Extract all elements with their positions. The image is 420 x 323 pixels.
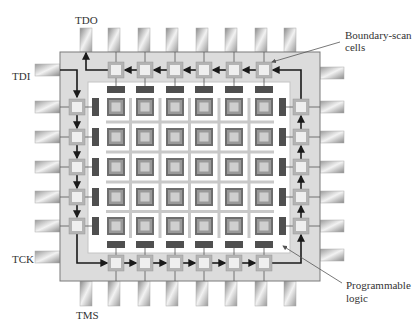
pin bbox=[138, 28, 150, 52]
pin bbox=[35, 131, 60, 143]
pin bbox=[320, 67, 344, 79]
boundary-scan-cell-core bbox=[140, 258, 150, 268]
boundary-scan-label-line1: Boundary-scan bbox=[345, 29, 412, 41]
boundary-scan-cell-core bbox=[170, 258, 180, 268]
boundary-scan-cell-core bbox=[296, 221, 306, 231]
logic-block-core bbox=[112, 222, 121, 231]
pin bbox=[320, 101, 344, 113]
tdo-label: TDO bbox=[75, 14, 98, 26]
io-block-left bbox=[92, 98, 99, 116]
pin bbox=[35, 101, 60, 113]
pin bbox=[35, 251, 60, 263]
routing-channel-horizontal bbox=[106, 151, 274, 154]
logic-block-core bbox=[112, 103, 121, 112]
boundary-scan-cell-core bbox=[296, 102, 306, 112]
boundary-scan-cell-core bbox=[72, 162, 82, 172]
routing-channel-vertical bbox=[159, 98, 162, 238]
logic-block-core bbox=[141, 193, 150, 202]
logic-block-core bbox=[141, 163, 150, 172]
io-block-right bbox=[279, 158, 286, 176]
tdi-label: TDI bbox=[12, 70, 30, 82]
boundary-scan-cell-core bbox=[111, 258, 121, 268]
pin bbox=[284, 28, 296, 52]
boundary-scan-cell-core bbox=[72, 132, 82, 142]
boundary-scan-cell-core bbox=[229, 65, 239, 75]
tms-label: TMS bbox=[76, 309, 99, 321]
io-block-left bbox=[92, 128, 99, 146]
logic-block-core bbox=[171, 193, 180, 202]
logic-block-core bbox=[260, 193, 269, 202]
logic-block-core bbox=[200, 163, 209, 172]
io-block-top bbox=[136, 86, 154, 93]
logic-block-core bbox=[112, 163, 121, 172]
pin bbox=[166, 281, 178, 306]
pin bbox=[80, 28, 92, 52]
io-block-top bbox=[225, 86, 243, 93]
left-pins bbox=[35, 64, 60, 263]
boundary-scan-cell-core bbox=[140, 65, 150, 75]
pin bbox=[225, 281, 237, 306]
routing-channels bbox=[106, 98, 274, 238]
logic-block-core bbox=[260, 103, 269, 112]
logic-block-core bbox=[200, 103, 209, 112]
pin bbox=[35, 220, 60, 232]
logic-block-core bbox=[230, 163, 239, 172]
boundary-scan-cell-core bbox=[72, 102, 82, 112]
pin bbox=[35, 64, 60, 76]
programmable-logic-label-line1: Programmable bbox=[346, 279, 411, 291]
io-block-bottom bbox=[166, 241, 184, 248]
logic-block-core bbox=[230, 133, 239, 142]
routing-channel-horizontal bbox=[106, 210, 274, 213]
logic-block-core bbox=[141, 222, 150, 231]
logic-block-core bbox=[230, 222, 239, 231]
pin bbox=[35, 191, 60, 203]
pin bbox=[255, 28, 267, 52]
boundary-scan-cell-core bbox=[72, 192, 82, 202]
routing-channel-vertical bbox=[248, 98, 251, 238]
pin bbox=[80, 281, 92, 306]
pin bbox=[166, 28, 178, 52]
routing-channel-vertical bbox=[218, 98, 221, 238]
logic-block-core bbox=[171, 222, 180, 231]
logic-block-core bbox=[260, 133, 269, 142]
boundary-scan-cell-core bbox=[259, 258, 269, 268]
logic-block-core bbox=[230, 103, 239, 112]
logic-block-core bbox=[141, 103, 150, 112]
pin bbox=[138, 281, 150, 306]
routing-channel-vertical bbox=[129, 98, 132, 238]
pin bbox=[284, 281, 296, 306]
boundary-scan-cell-core bbox=[111, 65, 121, 75]
io-block-left bbox=[92, 217, 99, 235]
pin bbox=[225, 28, 237, 52]
logic-block-core bbox=[260, 163, 269, 172]
io-block-top bbox=[107, 86, 125, 93]
logic-block-core bbox=[230, 193, 239, 202]
boundary-scan-label-line2: cells bbox=[345, 41, 365, 53]
io-block-bottom bbox=[255, 241, 273, 248]
io-block-left bbox=[92, 158, 99, 176]
io-block-top bbox=[255, 86, 273, 93]
pin bbox=[320, 191, 344, 203]
io-block-right bbox=[279, 98, 286, 116]
routing-channel-horizontal bbox=[106, 181, 274, 184]
logic-block-core bbox=[171, 103, 180, 112]
pin bbox=[196, 281, 208, 306]
logic-block-core bbox=[171, 133, 180, 142]
logic-block-core bbox=[112, 193, 121, 202]
boundary-scan-cell-core bbox=[72, 221, 82, 231]
io-block-right bbox=[279, 217, 286, 235]
boundary-scan-cell-core bbox=[229, 258, 239, 268]
io-block-bottom bbox=[225, 241, 243, 248]
io-block-top bbox=[166, 86, 184, 93]
io-block-bottom bbox=[195, 241, 213, 248]
top-pins bbox=[80, 28, 296, 52]
boundary-scan-cell-core bbox=[259, 65, 269, 75]
pin bbox=[320, 161, 344, 173]
logic-block-core bbox=[112, 133, 121, 142]
boundary-scan-cell-core bbox=[170, 65, 180, 75]
boundary-scan-cell-core bbox=[199, 65, 209, 75]
programmable-logic-label-line2: logic bbox=[346, 292, 368, 304]
logic-block-core bbox=[141, 133, 150, 142]
logic-block-core bbox=[200, 193, 209, 202]
boundary-scan-cell-core bbox=[296, 162, 306, 172]
